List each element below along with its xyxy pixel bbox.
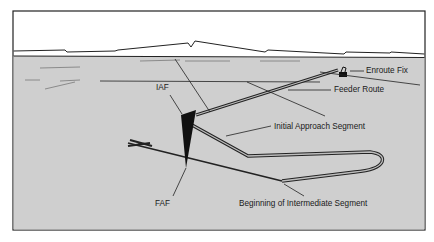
initial-approach-segment-label: Initial Approach Segment (274, 123, 365, 131)
enroute-fix-label: Enroute Fix (366, 67, 408, 75)
approach-segments-diagram (0, 0, 434, 242)
iaf-label: IAF (156, 84, 169, 92)
faf-label: FAF (155, 200, 170, 208)
feeder-route-label: Feeder Route (334, 86, 384, 94)
beginning-intermediate-segment-label: Beginning of Intermediate Segment (239, 200, 367, 208)
